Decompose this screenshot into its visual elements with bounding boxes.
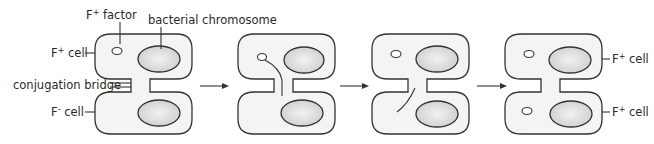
f-factor-plasmid-bottom — [522, 108, 532, 115]
stage-4-labels: F+ cell F+ cell — [602, 52, 649, 119]
arrow-head-icon — [362, 83, 369, 89]
bottom-chromosome — [550, 101, 592, 127]
arrow-2 — [340, 83, 369, 89]
recipient-chromosome — [281, 100, 323, 126]
arrow-3 — [477, 83, 507, 89]
f-factor-plasmid-top — [524, 51, 534, 58]
stage-2 — [238, 34, 335, 134]
donor-chromosome — [284, 47, 324, 73]
stage-4 — [505, 34, 602, 134]
f-plus-cell-label: F+ cell — [51, 46, 88, 60]
f-minus-cell-label: F- cell — [51, 105, 84, 119]
stage-3 — [372, 34, 469, 134]
f-factor-plasmid — [258, 54, 267, 61]
arrow-head-icon — [500, 83, 507, 89]
result-top-cell-label: F+ cell — [612, 52, 649, 66]
donor-chromosome — [416, 46, 458, 72]
top-chromosome — [549, 47, 591, 73]
recipient-chromosome — [416, 101, 458, 127]
f-factor-label: F+ factor — [86, 8, 137, 22]
f-factor-plasmid — [391, 51, 401, 58]
donor-chromosome — [138, 46, 180, 72]
result-bottom-cell-label: F+ cell — [612, 105, 649, 119]
bacterial-chromosome-label: bacterial chromosome — [148, 13, 277, 27]
conjugation-bridge-label: conjugation bridge — [13, 78, 121, 92]
f-factor-plasmid — [112, 48, 122, 55]
arrow-head-icon — [222, 83, 229, 89]
arrow-1 — [200, 83, 229, 89]
recipient-chromosome — [138, 100, 180, 126]
